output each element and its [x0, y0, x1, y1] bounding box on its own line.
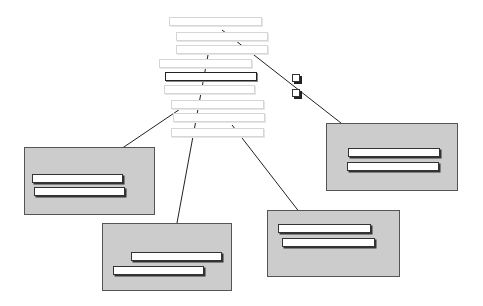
panel-field: [32, 174, 123, 183]
panel-field: [348, 148, 440, 157]
panel-field: [131, 252, 222, 261]
list-item: [173, 113, 265, 122]
list-item: [169, 17, 262, 26]
checkbox-icon: [292, 89, 300, 97]
panel-field: [34, 187, 125, 196]
panel-field: [278, 224, 371, 233]
list-item: [159, 59, 252, 68]
panel-field: [113, 266, 204, 275]
list-item: [171, 128, 264, 137]
panel-field: [347, 162, 439, 171]
list-item: [176, 32, 268, 41]
selected-list-item: [165, 72, 257, 81]
target-panel-right: [326, 123, 458, 191]
checkbox-icon: [292, 74, 300, 82]
list-item: [164, 85, 255, 94]
list-item: [171, 100, 264, 109]
list-item: [176, 45, 268, 54]
arrow-to-bottom-right-box: [232, 125, 307, 222]
panel-field: [282, 238, 375, 247]
